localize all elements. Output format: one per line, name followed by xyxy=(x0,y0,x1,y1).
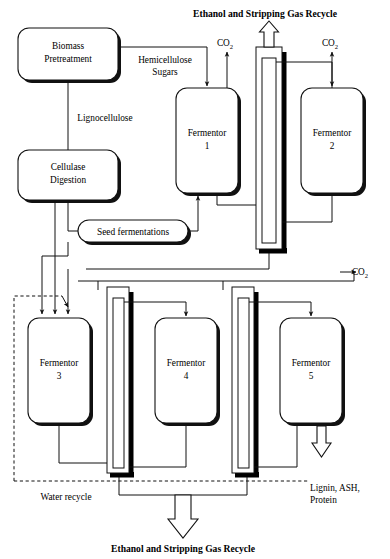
cellulase-digestion-label-1: Cellulase xyxy=(51,162,86,172)
unit-cellulase-digestion[interactable]: Cellulase Digestion xyxy=(18,150,121,203)
fermentor-3-label-2: 3 xyxy=(57,371,62,381)
fermentor-5-label-2: 5 xyxy=(309,371,314,381)
fermentor-2-label-1: Fermentor xyxy=(313,128,353,138)
flow-diagram-canvas: Ethanol and Stripping Gas Recycle Biomas… xyxy=(0,0,390,559)
link-fermentor3-to-column-left xyxy=(59,423,107,463)
unit-fermentor-1[interactable]: Fermentor 1 xyxy=(176,88,241,196)
co2-fermentor-2-label: CO2 xyxy=(322,38,338,50)
stripping-column-right[interactable] xyxy=(232,287,259,478)
lignin-discharge-arrow xyxy=(312,426,331,457)
co2-vent-fermentor-1: CO2 xyxy=(217,38,233,88)
link-cellulase-to-seed xyxy=(68,200,78,231)
stripping-column-top[interactable] xyxy=(256,21,287,254)
cellulase-digestion-label-2: Digestion xyxy=(50,175,87,185)
link-column-top-to-bottom-bank xyxy=(86,253,269,269)
fermentor-2-label-2: 2 xyxy=(330,141,335,151)
link-fermentor5-to-column-right xyxy=(254,426,297,467)
seed-fermentations-label: Seed fermentations xyxy=(97,227,169,237)
unit-biomass-pretreatment[interactable]: Biomass Pretreatment xyxy=(18,28,121,83)
unit-fermentor-5[interactable]: Fermentor 5 xyxy=(280,318,345,426)
stripping-column-top-outlet-arrow xyxy=(260,21,279,47)
unit-fermentor-4[interactable]: Fermentor 4 xyxy=(155,318,220,426)
bottom-product-header xyxy=(119,477,247,495)
fermentor-3-label-1: Fermentor xyxy=(40,358,80,368)
stripping-column-left-inner xyxy=(113,298,124,468)
stream-hemicellulose-label-1: Hemicellulose xyxy=(138,55,192,65)
stripping-column-top-inner xyxy=(262,58,276,243)
bottom-product-outlet-arrow xyxy=(168,495,198,538)
fermentor-5-label-1: Fermentor xyxy=(292,358,332,368)
stripping-column-right-inner xyxy=(238,298,249,468)
stream-lignocellulose-label: Lignocellulose xyxy=(77,113,132,123)
fermentor-4-label-2: 4 xyxy=(184,371,189,381)
co2-vent-fermentor-2: CO2 xyxy=(322,38,338,88)
fermentor-1-label-2: 1 xyxy=(205,141,210,151)
process-flow-diagram: Ethanol and Stripping Gas Recycle Biomas… xyxy=(0,0,390,559)
water-recycle-arrow xyxy=(62,296,68,307)
bottom-title: Ethanol and Stripping Gas Recycle xyxy=(111,543,256,554)
stream-hemicellulose-label-2: Sugars xyxy=(152,67,178,77)
link-seed-to-fermentor1 xyxy=(188,196,198,231)
co2-fermentor-1-label: CO2 xyxy=(217,38,233,50)
lignin-label-1: Lignin, ASH, xyxy=(310,483,360,493)
unit-fermentor-3[interactable]: Fermentor 3 xyxy=(28,318,93,426)
link-fermentor4-to-column-left xyxy=(129,426,186,467)
stripping-column-left[interactable] xyxy=(107,287,134,478)
unit-seed-fermentations[interactable]: Seed fermentations xyxy=(78,220,191,245)
water-recycle-label: Water recycle xyxy=(40,492,91,502)
top-title: Ethanol and Stripping Gas Recycle xyxy=(193,8,338,19)
biomass-pretreatment-label-2: Pretreatment xyxy=(44,54,92,64)
biomass-pretreatment-label-1: Biomass xyxy=(52,41,84,51)
fermentor-1-label-1: Fermentor xyxy=(188,128,228,138)
lignin-label-2: Protein xyxy=(310,495,337,505)
unit-fermentor-2[interactable]: Fermentor 2 xyxy=(301,88,366,196)
fermentor-4-label-1: Fermentor xyxy=(167,358,207,368)
co2-bottom-bank-label: CO2 xyxy=(352,267,368,279)
link-fermentor2-to-column-top xyxy=(282,196,332,222)
